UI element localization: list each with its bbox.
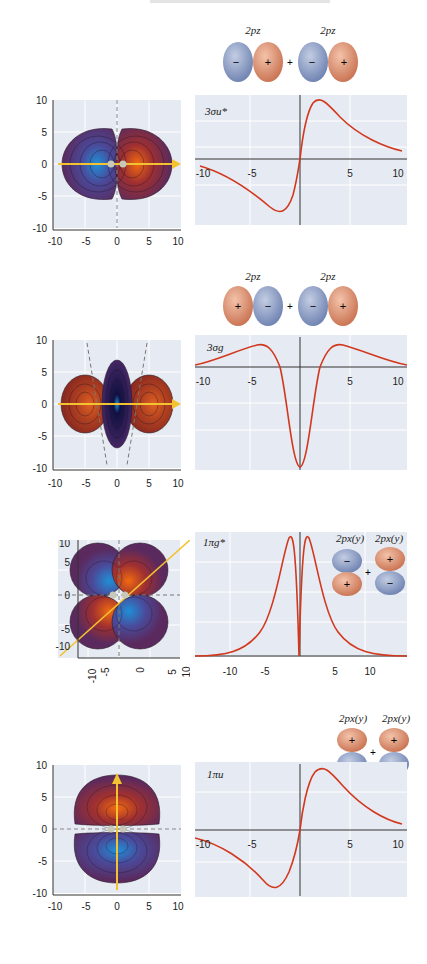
svg-text:0: 0 bbox=[114, 478, 120, 489]
svg-text:2pz: 2pz bbox=[245, 24, 261, 36]
svg-text:2pz: 2pz bbox=[245, 270, 261, 282]
svg-text:-5: -5 bbox=[82, 901, 91, 912]
svg-text:5: 5 bbox=[347, 168, 353, 179]
contour-plot-1pi-u: 1050-5-10 -10-50510 bbox=[20, 760, 190, 920]
svg-text:-10: -10 bbox=[196, 168, 211, 179]
svg-text:0: 0 bbox=[114, 901, 120, 912]
svg-text:0: 0 bbox=[135, 667, 146, 673]
nucleus-icon bbox=[120, 161, 127, 168]
svg-text:+: + bbox=[287, 57, 293, 68]
svg-text:1πg*: 1πg* bbox=[203, 536, 226, 548]
svg-text:+: + bbox=[365, 567, 371, 578]
svg-text:+: + bbox=[391, 734, 397, 746]
svg-text:-5: -5 bbox=[38, 191, 47, 202]
svg-text:0: 0 bbox=[41, 399, 47, 410]
profile-plot-1pi-g-star: 1πg* -10-5510 2px(y) 2px(y) − + + + − bbox=[195, 532, 407, 682]
svg-text:−: − bbox=[387, 577, 393, 589]
p-orbital-lobes: − + + − + 2pz 2pz bbox=[218, 22, 408, 82]
svg-text:3σu*: 3σu* bbox=[204, 105, 227, 117]
svg-text:10: 10 bbox=[36, 760, 48, 771]
svg-text:-10: -10 bbox=[196, 376, 211, 387]
contour-plot-1pi-g-star: 1050-5-10 -10 -5 0 5 10 bbox=[20, 540, 190, 700]
svg-text:10: 10 bbox=[392, 168, 404, 179]
svg-text:+: + bbox=[265, 56, 271, 68]
svg-text:10: 10 bbox=[392, 839, 404, 850]
svg-text:-10: -10 bbox=[48, 478, 63, 489]
contour-plot-3sigma-u-star: 1050-5-10 -10-50510 bbox=[20, 95, 190, 250]
svg-text:2px(y): 2px(y) bbox=[336, 532, 364, 545]
svg-text:-10: -10 bbox=[48, 901, 63, 912]
svg-text:2px(y): 2px(y) bbox=[382, 712, 410, 725]
svg-text:0: 0 bbox=[114, 236, 120, 247]
svg-text:-5: -5 bbox=[38, 856, 47, 867]
svg-text:-5: -5 bbox=[248, 376, 257, 387]
svg-text:+: + bbox=[370, 747, 376, 758]
svg-text:−: − bbox=[309, 56, 315, 68]
svg-text:-5: -5 bbox=[248, 168, 257, 179]
svg-text:+: + bbox=[349, 734, 355, 746]
svg-text:+: + bbox=[341, 56, 347, 68]
nucleus-icon bbox=[108, 826, 115, 833]
svg-text:1πu: 1πu bbox=[207, 768, 224, 780]
nucleus-icon bbox=[120, 826, 127, 833]
svg-text:10: 10 bbox=[59, 540, 71, 549]
svg-text:5: 5 bbox=[64, 557, 70, 568]
svg-text:5: 5 bbox=[146, 901, 152, 912]
svg-text:−: − bbox=[233, 56, 239, 68]
svg-text:5: 5 bbox=[146, 478, 152, 489]
svg-text:-10: -10 bbox=[33, 888, 48, 899]
svg-text:10: 10 bbox=[36, 95, 48, 106]
profile-plot-3sigma-g: 3σg -10-5510 bbox=[195, 335, 407, 475]
svg-text:+: + bbox=[344, 578, 350, 590]
orbital-diagram-row2: + − + − + 2pz 2pz bbox=[218, 268, 408, 328]
svg-text:-5: -5 bbox=[61, 624, 70, 635]
svg-text:-5: -5 bbox=[82, 478, 91, 489]
svg-text:2pz: 2pz bbox=[320, 270, 336, 282]
svg-text:-5: -5 bbox=[100, 667, 111, 676]
svg-text:-10: -10 bbox=[48, 236, 63, 247]
svg-text:+: + bbox=[340, 300, 346, 312]
profile-plot-3sigma-u-star: 3σu* -10-5510 bbox=[195, 95, 407, 230]
svg-text:0: 0 bbox=[41, 159, 47, 170]
svg-text:0: 0 bbox=[64, 590, 70, 601]
svg-text:2pz: 2pz bbox=[320, 24, 336, 36]
header-strip bbox=[150, 0, 330, 3]
svg-text:+: + bbox=[287, 301, 293, 312]
svg-text:-5: -5 bbox=[261, 666, 270, 677]
svg-text:+: + bbox=[235, 300, 241, 312]
svg-text:0: 0 bbox=[41, 824, 47, 835]
svg-text:10: 10 bbox=[392, 376, 404, 387]
svg-text:5: 5 bbox=[347, 839, 353, 850]
svg-text:2px(y): 2px(y) bbox=[375, 532, 403, 545]
svg-text:2px(y): 2px(y) bbox=[339, 712, 367, 725]
svg-text:-5: -5 bbox=[82, 236, 91, 247]
svg-text:-10: -10 bbox=[223, 666, 238, 677]
svg-text:5: 5 bbox=[41, 367, 47, 378]
nucleus-icon bbox=[108, 161, 115, 168]
svg-text:-5: -5 bbox=[38, 431, 47, 442]
contour-plot-3sigma-g: 1050-5-10 -10-50510 bbox=[20, 335, 190, 495]
svg-text:3σg: 3σg bbox=[206, 341, 224, 353]
svg-text:10: 10 bbox=[172, 478, 184, 489]
svg-text:-10: -10 bbox=[33, 223, 48, 234]
svg-text:5: 5 bbox=[41, 127, 47, 138]
svg-text:5: 5 bbox=[167, 669, 178, 675]
svg-text:−: − bbox=[310, 300, 316, 312]
svg-text:−: − bbox=[344, 555, 350, 567]
svg-text:-10: -10 bbox=[56, 641, 71, 652]
svg-text:-10: -10 bbox=[196, 839, 211, 850]
svg-text:5: 5 bbox=[41, 792, 47, 803]
nucleus-icon bbox=[110, 592, 117, 599]
svg-text:-10: -10 bbox=[33, 463, 48, 474]
profile-plot-1pi-u: 1πu -10-5510 bbox=[195, 762, 407, 902]
svg-text:5: 5 bbox=[347, 376, 353, 387]
svg-text:10: 10 bbox=[172, 236, 184, 247]
svg-text:+: + bbox=[387, 553, 393, 565]
svg-text:−: − bbox=[265, 300, 271, 312]
svg-text:-10: -10 bbox=[87, 668, 98, 683]
svg-text:10: 10 bbox=[172, 901, 184, 912]
svg-text:5: 5 bbox=[146, 236, 152, 247]
svg-text:5: 5 bbox=[332, 666, 338, 677]
svg-text:10: 10 bbox=[181, 666, 190, 678]
svg-text:-5: -5 bbox=[248, 839, 257, 850]
